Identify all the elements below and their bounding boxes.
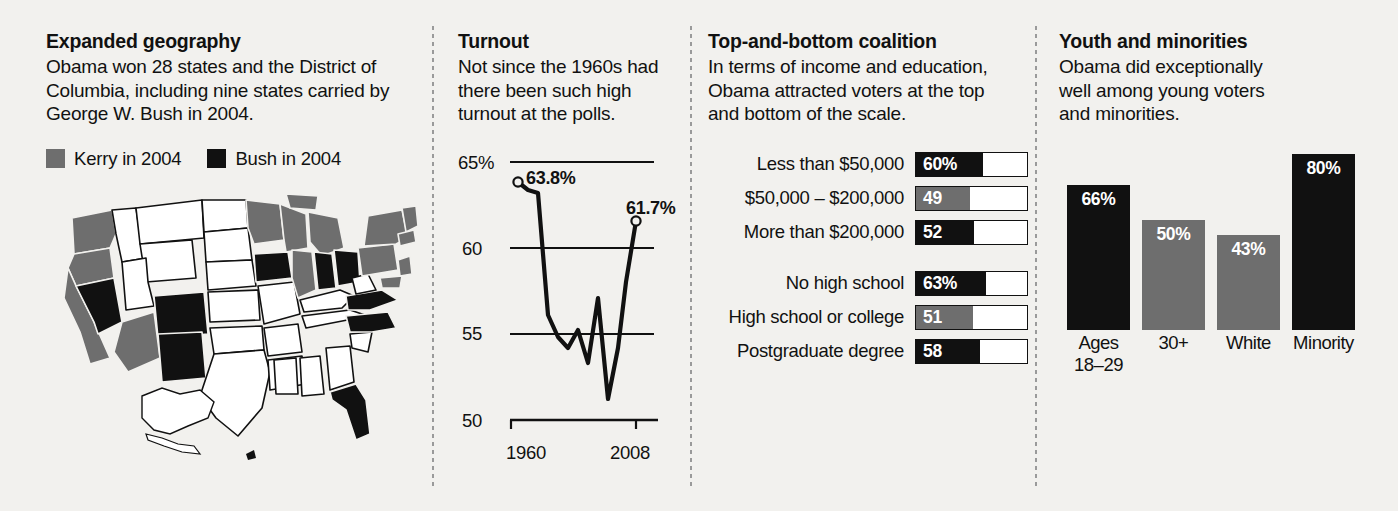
- state-michigan: [308, 212, 344, 256]
- y-tick-55: 55: [462, 323, 482, 345]
- bar-value-edu-none: 63%: [916, 273, 957, 294]
- panel-expanded-geography: Expanded geography Obama won 28 states a…: [0, 0, 432, 511]
- column-value-minority: 80%: [1292, 158, 1355, 179]
- state-nebraska: [206, 260, 256, 290]
- legend-label-bush: Bush in 2004: [235, 148, 341, 170]
- column-label-ages: Ages 18–29: [1067, 332, 1130, 382]
- column-value-30plus: 50%: [1142, 224, 1205, 245]
- bar-label-edu-post: Postgraduate degree: [708, 340, 915, 362]
- state-new-mexico: [158, 332, 206, 382]
- panel-divider-2: [690, 26, 692, 489]
- legend-item-kerry: Kerry in 2004: [46, 148, 181, 170]
- legend-swatch-black-icon: [207, 149, 226, 168]
- panel-coalition: Top-and-bottom coalition In terms of inc…: [690, 0, 1035, 511]
- state-south-carolina: [350, 332, 372, 352]
- bar-value-edu-mid: 51: [916, 307, 942, 328]
- alaska-aleutians: [146, 434, 200, 454]
- state-arkansas: [264, 324, 302, 356]
- bar-label-edu-none: No high school: [708, 272, 915, 294]
- bar-row-edu-mid: High school or college 51: [708, 305, 1035, 330]
- turnout-line-chart: 65% 60 55 50 1960 2008 63.8% 61.7%: [458, 148, 690, 452]
- column-categories: Ages 18–29 30+ White Minority: [1067, 332, 1355, 382]
- column-label-white: White: [1217, 332, 1280, 382]
- legend-label-kerry: Kerry in 2004: [74, 148, 181, 170]
- bar-value-income-high: 52: [916, 222, 942, 243]
- state-florida: [330, 384, 370, 440]
- state-wyoming: [140, 240, 196, 282]
- annotation-start-value: 63.8%: [526, 168, 576, 189]
- bar-row-edu-none: No high school 63%: [708, 271, 1035, 296]
- panel-divider-3: [1035, 26, 1037, 489]
- legend-swatch-gray-icon: [46, 149, 65, 168]
- bar-label-income-mid: $50,000 – $200,000: [708, 187, 915, 209]
- y-tick-50: 50: [462, 410, 482, 432]
- legend-item-bush: Bush in 2004: [207, 148, 341, 170]
- bar-row-income-mid: $50,000 – $200,000 49: [708, 186, 1035, 211]
- bar-track-edu-post: 58: [915, 339, 1028, 364]
- state-iowa: [254, 252, 292, 282]
- column-label-ages-line1: Ages: [1067, 332, 1130, 354]
- marker-start-1960: [513, 177, 522, 186]
- state-virginia: [346, 290, 398, 310]
- column-bar-ages: 66%: [1067, 185, 1130, 330]
- column-label-minority: Minority: [1292, 332, 1355, 382]
- state-oklahoma: [210, 326, 264, 354]
- bar-fill-income-low: 60%: [916, 153, 983, 176]
- turnout-series-line: [518, 182, 636, 399]
- us-map: [50, 182, 432, 476]
- bar-value-income-low: 60%: [916, 154, 957, 175]
- panel-heading-youth: Youth and minorities: [1059, 30, 1398, 53]
- state-west-virginia: [352, 274, 376, 294]
- column-value-ages: 66%: [1067, 189, 1130, 210]
- bar-track-edu-none: 63%: [915, 271, 1028, 296]
- panel-body-geography: Obama won 28 states and the District of …: [46, 55, 418, 126]
- bar-fill-income-mid: 49: [916, 187, 970, 210]
- panel-body-coalition: In terms of income and education, Obama …: [708, 55, 1018, 126]
- panel-divider-1: [432, 26, 434, 489]
- column-value-white: 43%: [1217, 239, 1280, 260]
- state-colorado: [154, 292, 208, 338]
- panel-heading-geography: Expanded geography: [46, 30, 432, 53]
- y-tick-60: 60: [462, 238, 482, 260]
- state-alaska: [142, 388, 214, 434]
- state-georgia: [326, 346, 354, 390]
- annotation-end-value: 61.7%: [626, 198, 676, 219]
- panel-heading-coalition: Top-and-bottom coalition: [708, 30, 1035, 53]
- coalition-bar-chart: Less than $50,000 60% $50,000 – $200,000…: [708, 152, 1035, 364]
- state-indiana: [314, 252, 336, 290]
- youth-column-chart: 66% 50% 43% 80%: [1059, 132, 1359, 382]
- bar-fill-edu-post: 58: [916, 340, 980, 363]
- bar-track-income-low: 60%: [915, 152, 1028, 177]
- turnout-plot: [458, 148, 688, 448]
- state-kansas: [208, 290, 260, 322]
- bar-fill-income-high: 52: [916, 221, 974, 244]
- bar-label-edu-mid: High school or college: [708, 306, 915, 328]
- state-new-jersey: [398, 256, 412, 276]
- panel-body-turnout: Not since the 1960s had there been such …: [458, 55, 670, 126]
- bar-row-income-low: Less than $50,000 60%: [708, 152, 1035, 177]
- bar-label-income-low: Less than $50,000: [708, 153, 915, 175]
- state-wisconsin: [280, 204, 308, 252]
- column-group: 66% 50% 43% 80%: [1067, 154, 1355, 330]
- panel-heading-turnout: Turnout: [458, 30, 690, 53]
- column-bar-white: 43%: [1217, 235, 1280, 330]
- x-tick-2008: 2008: [610, 442, 650, 464]
- y-tick-65: 65%: [458, 152, 494, 174]
- column-item-minority: 80%: [1292, 154, 1355, 330]
- bar-value-income-mid: 49: [916, 188, 942, 209]
- panel-body-youth: Obama did exceptionally well among young…: [1059, 55, 1299, 126]
- bar-row-edu-post: Postgraduate degree 58: [708, 339, 1035, 364]
- state-alabama: [300, 356, 324, 396]
- panel-youth: Youth and minorities Obama did exception…: [1035, 0, 1398, 511]
- state-montana: [136, 200, 204, 244]
- panel-turnout: Turnout Not since the 1960s had there be…: [432, 0, 690, 511]
- column-label-ages-line2: 18–29: [1067, 354, 1130, 376]
- bar-value-edu-post: 58: [916, 341, 942, 362]
- bar-row-income-high: More than $200,000 52: [708, 220, 1035, 245]
- column-bar-minority: 80%: [1292, 154, 1355, 330]
- state-pennsylvania: [358, 244, 398, 276]
- state-south-dakota: [204, 228, 252, 262]
- state-michigan-up: [286, 194, 318, 210]
- state-texas: [200, 350, 270, 436]
- column-bar-30plus: 50%: [1142, 220, 1205, 330]
